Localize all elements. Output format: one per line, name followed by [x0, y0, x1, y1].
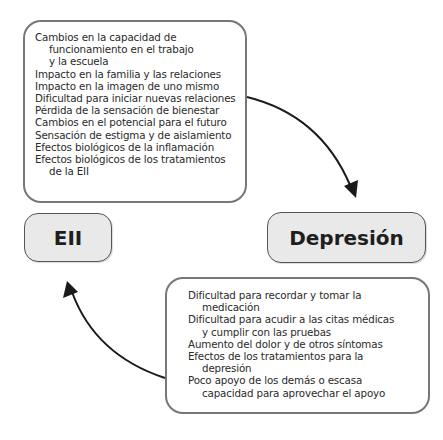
arrows-layer — [0, 0, 443, 440]
arrow-eii-to-depression — [247, 97, 358, 198]
arrow-depression-to-eii — [63, 281, 165, 378]
